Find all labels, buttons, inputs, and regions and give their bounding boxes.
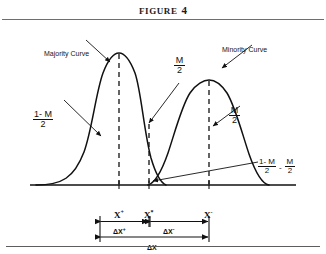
dimension-superscript: - [173,226,175,232]
leader-majority-curve [86,40,110,62]
expression-one-minus-m-over-2-minus-m-over-2: 1- M 2 - M 2 [258,158,295,176]
figure-header: FIGURE4 [0,0,326,20]
leader-m-over-2-top [149,83,179,123]
minority-curve-label: Minority Curve [222,46,267,53]
dimension-base: ΔX [163,228,173,235]
majority-curve-label: Majority Curve [44,50,89,57]
leader-bottom-expression [153,162,258,181]
tick-superscript: * [151,209,154,215]
axis-tick-label-x-star: X* [144,210,154,220]
figure-plot-area: Majority Curve Minority Curve M 2 M 2 1-… [0,20,326,254]
fraction-numerator: M [230,106,240,115]
fraction-denominator: 2 [33,119,53,129]
fraction-denominator: 2 [229,115,240,125]
majority-curve-path [36,53,166,185]
fraction-denominator: 2 [285,166,295,175]
fraction-m-over-2-top: M 2 [174,56,185,76]
figure-caption-number: 4 [178,4,188,16]
figure-caption-title: FIGURE [139,2,178,16]
fraction-denominator: 2 [258,166,276,175]
dimension-base: ΔX [113,228,123,235]
axis-tick-label-x-minus: X- [204,210,213,220]
fraction-denominator: 2 [174,65,185,75]
fraction-m-over-2-right: M 2 [229,106,240,126]
fraction-numerator: 1- M [258,158,276,166]
tick-superscript: - [211,209,213,215]
expression-operator: - [278,163,283,172]
bracket-delta-x-minus [150,216,209,227]
axis-tick-label-x-plus: X+ [114,210,124,220]
fraction-numerator: M [175,56,185,65]
fraction-numerator: M [286,158,295,166]
dimension-superscript: + [123,226,126,232]
dimension-label-delta-x-plus: ΔX+ [113,228,126,235]
footer-divider-rule [6,246,320,247]
dimension-label-delta-x-minus: ΔX- [163,228,174,235]
expression-first-fraction: 1- M 2 [258,158,276,176]
fraction-one-minus-m-over-2-left: 1- M 2 [33,110,53,130]
fraction-numerator: 1- M [33,110,53,119]
tick-superscript: + [121,209,124,215]
expression-second-fraction: M 2 [285,158,295,176]
minority-curve-path [148,80,269,185]
